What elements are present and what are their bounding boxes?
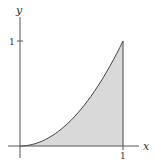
x-axis-label: x <box>143 140 150 153</box>
x-tick-label: 1 <box>120 151 126 161</box>
shaded-region <box>20 41 123 146</box>
y-axis-label: y <box>15 4 23 17</box>
area-under-curve-diagram: y x 1 1 <box>0 0 156 165</box>
y-tick-label: 1 <box>9 37 15 47</box>
